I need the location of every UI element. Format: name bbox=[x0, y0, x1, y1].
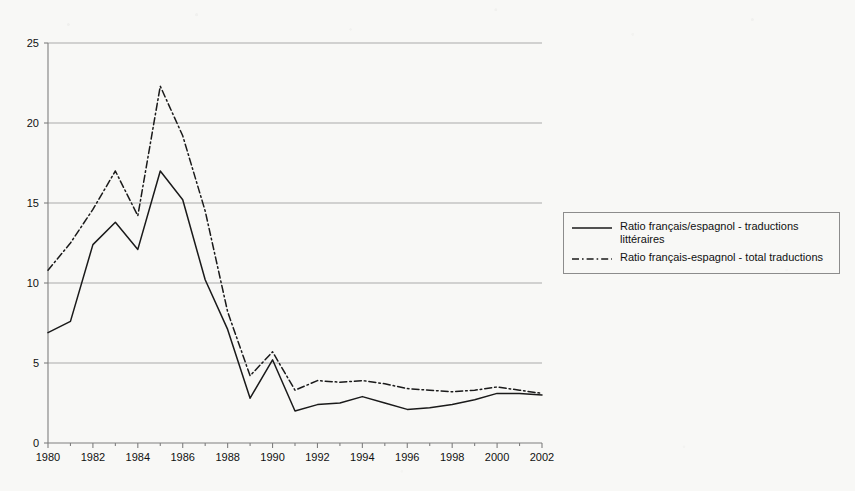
x-tick-label: 1990 bbox=[260, 451, 284, 463]
x-tick-label: 1988 bbox=[215, 451, 239, 463]
y-axis-tick-labels: 0510152025 bbox=[27, 37, 39, 449]
y-tick-label: 25 bbox=[27, 37, 39, 49]
series-line-total bbox=[48, 86, 542, 393]
x-tick-label: 2000 bbox=[485, 451, 509, 463]
y-tick-label: 0 bbox=[33, 437, 39, 449]
y-tick-label: 15 bbox=[27, 197, 39, 209]
x-tick-label: 1982 bbox=[81, 451, 105, 463]
x-tick-label: 2002 bbox=[530, 451, 554, 463]
legend-swatch-solid-line-icon bbox=[570, 220, 614, 234]
x-tick-label: 1992 bbox=[305, 451, 329, 463]
y-tick-label: 5 bbox=[33, 357, 39, 369]
data-series-group bbox=[48, 86, 542, 411]
legend-entry-total: Ratio français-espagnol - total traducti… bbox=[570, 251, 831, 265]
x-axis bbox=[48, 443, 542, 448]
x-tick-label: 1980 bbox=[36, 451, 60, 463]
legend-label-literary: Ratio français/espagnol - traductions li… bbox=[620, 220, 799, 246]
x-axis-tick-labels: 1980198219841986198819901992199419961998… bbox=[36, 451, 554, 463]
y-tick-label: 20 bbox=[27, 117, 39, 129]
legend-swatch-dash-dot-line-icon bbox=[570, 251, 614, 265]
series-line-literary bbox=[48, 171, 542, 411]
grid-lines bbox=[48, 43, 542, 363]
x-tick-label: 1986 bbox=[170, 451, 194, 463]
chart-legend: Ratio français/espagnol - traductions li… bbox=[563, 212, 840, 274]
y-tick-label: 10 bbox=[27, 277, 39, 289]
x-tick-label: 1994 bbox=[350, 451, 374, 463]
legend-label-total: Ratio français-espagnol - total traducti… bbox=[620, 251, 823, 264]
legend-entry-literary: Ratio français/espagnol - traductions li… bbox=[570, 220, 831, 246]
x-tick-label: 1998 bbox=[440, 451, 464, 463]
line-chart: 0510152025 19801982198419861988199019921… bbox=[0, 0, 855, 491]
x-tick-label: 1996 bbox=[395, 451, 419, 463]
x-tick-label: 1984 bbox=[126, 451, 150, 463]
y-axis bbox=[44, 43, 48, 443]
